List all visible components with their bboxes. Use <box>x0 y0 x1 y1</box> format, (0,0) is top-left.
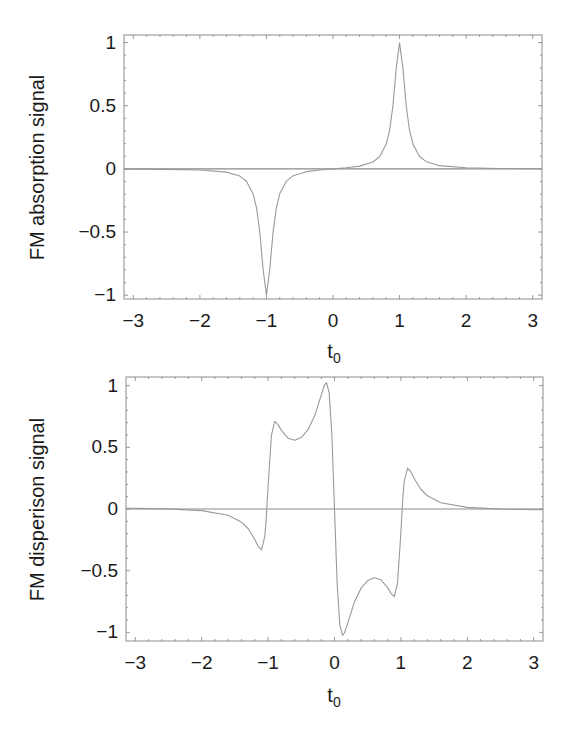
x-axis-label: t0 <box>314 684 354 710</box>
x-tick-label: 0 <box>315 653 355 672</box>
x-tick-label: 3 <box>514 653 554 672</box>
x-axis-label-subscript: 0 <box>333 694 341 710</box>
y-tick-label: 0.5 <box>58 437 118 456</box>
x-tick-label: 2 <box>447 653 487 672</box>
y-tick-label: 1 <box>58 376 118 395</box>
x-tick-label: −1 <box>248 653 288 672</box>
dispersion-chart: 1 0.5 0 −0.5 −1 −3 −2 −1 0 1 2 3 t0 FM d… <box>0 0 575 739</box>
x-tick-label: 1 <box>381 653 421 672</box>
y-tick-label: 0 <box>58 499 118 518</box>
x-tick-label: −2 <box>182 653 222 672</box>
y-tick-label: −1 <box>58 622 118 641</box>
y-axis-label: FM disperison signal <box>26 375 49 645</box>
x-tick-label: −3 <box>115 653 155 672</box>
y-tick-label: −0.5 <box>58 561 118 580</box>
